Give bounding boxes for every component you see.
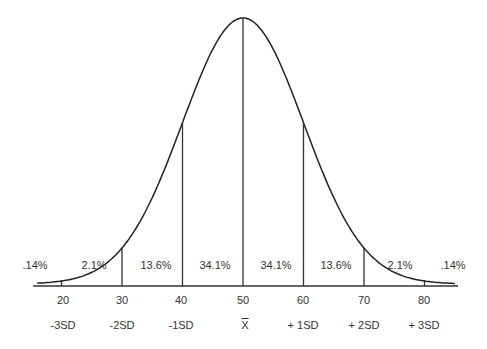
mean-label: X — [241, 319, 248, 331]
region-pct-6: 2.1% — [387, 259, 412, 271]
tick-label-60: 60 — [297, 294, 309, 306]
sd-label-minus1: -1SD — [168, 319, 193, 331]
sd-label-minus3: -3SD — [50, 319, 75, 331]
sd-label-plus1: + 1SD — [288, 319, 319, 331]
tick-label-80: 80 — [418, 294, 430, 306]
sd-label-plus3: + 3SD — [409, 319, 440, 331]
region-pct-0: .14% — [22, 259, 47, 271]
bell-curve — [37, 18, 455, 283]
tick-label-40: 40 — [175, 294, 187, 306]
sd-label-minus2: -2SD — [109, 319, 134, 331]
region-pct-3: 34.1% — [199, 259, 230, 271]
tick-label-30: 30 — [116, 294, 128, 306]
region-pct-4: 34.1% — [260, 259, 291, 271]
tick-label-50: 50 — [237, 294, 249, 306]
tick-label-70: 70 — [358, 294, 370, 306]
sd-label-plus2: + 2SD — [349, 319, 380, 331]
tick-label-20: 20 — [57, 294, 69, 306]
sd-lines — [62, 18, 425, 286]
region-pct-5: 13.6% — [320, 259, 351, 271]
region-pct-2: 13.6% — [140, 259, 171, 271]
region-pct-1: 2.1% — [81, 259, 106, 271]
region-pct-7: .14% — [440, 259, 465, 271]
